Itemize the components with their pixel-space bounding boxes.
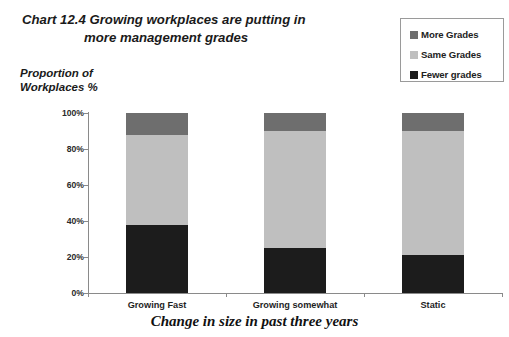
y-axis-tick-mark xyxy=(84,149,88,150)
legend-swatch-same-grades xyxy=(410,51,418,59)
bar-group[interactable] xyxy=(402,113,464,293)
x-axis-tick-mark xyxy=(502,293,503,297)
x-axis-category-label: Growing Fast xyxy=(128,300,187,310)
legend-swatch-more-grades xyxy=(410,31,418,39)
bar-segment[interactable] xyxy=(402,113,464,131)
y-axis-title-line-2: Workplaces % xyxy=(20,80,160,94)
bar-segment[interactable] xyxy=(402,131,464,255)
y-axis-tick-label: 0% xyxy=(50,288,84,298)
legend-label-more-grades: More Grades xyxy=(421,29,479,40)
x-axis-title: Change in size in past three years xyxy=(0,313,509,330)
bar-group[interactable] xyxy=(264,113,326,293)
plot-area xyxy=(88,113,502,293)
x-axis-line xyxy=(88,293,502,294)
x-axis-category-label: Growing somewhat xyxy=(253,300,338,310)
bar-segment[interactable] xyxy=(264,248,326,293)
y-axis-tick-label: 40% xyxy=(50,216,84,226)
bar-segment[interactable] xyxy=(402,255,464,293)
legend-item-fewer-grades: Fewer grades xyxy=(410,66,503,83)
y-axis-tick-labels: 0%20%40%60%80%100% xyxy=(46,113,84,293)
y-axis-tick-mark xyxy=(84,221,88,222)
chart-page: Chart 12.4 Growing workplaces are puttin… xyxy=(0,0,509,337)
chart-title-line-1: Chart 12.4 Growing workplaces are puttin… xyxy=(22,11,382,29)
page-title: Chart 12.4 Growing workplaces are puttin… xyxy=(22,11,382,47)
legend-label-same-grades: Same Grades xyxy=(421,49,481,60)
y-axis-tick-label: 100% xyxy=(50,108,84,118)
y-axis-tick-mark xyxy=(84,185,88,186)
x-axis-category-label: Static xyxy=(420,300,445,310)
y-axis-tick-label: 20% xyxy=(50,252,84,262)
bar-segment[interactable] xyxy=(264,131,326,248)
legend-swatch-fewer-grades xyxy=(410,71,418,79)
bar-segment[interactable] xyxy=(264,113,326,131)
y-axis-tick-label: 60% xyxy=(50,180,84,190)
legend-item-same-grades: Same Grades xyxy=(410,46,503,63)
x-axis-tick-mark xyxy=(364,293,365,297)
y-axis-tick-mark xyxy=(84,113,88,114)
legend-item-more-grades: More Grades xyxy=(410,26,503,43)
x-axis-tick-mark xyxy=(88,293,89,297)
chart-title-line-2: more management grades xyxy=(22,29,382,47)
y-axis-title: Proportion of Workplaces % xyxy=(20,66,160,94)
x-axis-tick-mark xyxy=(226,293,227,297)
y-axis-title-line-1: Proportion of xyxy=(20,66,160,80)
y-axis-tick-label: 80% xyxy=(50,144,84,154)
bar-segment[interactable] xyxy=(126,113,188,135)
y-axis-tick-mark xyxy=(84,257,88,258)
legend-label-fewer-grades: Fewer grades xyxy=(421,69,482,80)
bar-group[interactable] xyxy=(126,113,188,293)
bar-segment[interactable] xyxy=(126,225,188,293)
bar-segment[interactable] xyxy=(126,135,188,225)
legend: More Grades Same Grades Fewer grades xyxy=(400,18,504,82)
